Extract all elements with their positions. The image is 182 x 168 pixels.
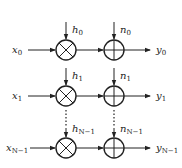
channel-row-0: x0 h0 n0 y0 (12, 22, 166, 60)
adder-icon (104, 40, 124, 60)
channel-row-1: x1 h1 n1 y1 (12, 68, 166, 106)
noise-label-n1: n1 (120, 70, 131, 83)
gain-label-hN-1: hN−1 (72, 123, 95, 136)
gain-label-h0: h0 (72, 24, 83, 37)
input-label-xN-1: xN−1 (6, 142, 28, 155)
input-label-x1: x1 (12, 90, 22, 103)
adder-icon (104, 86, 124, 106)
channel-row-n-1: xN−1 hN−1 nN−1 yN−1 (6, 123, 178, 158)
gain-label-h1: h1 (72, 70, 83, 83)
multiplier-icon (56, 138, 76, 158)
parallel-channel-diagram: x0 h0 n0 y0 x1 h1 n1 (0, 0, 182, 168)
adder-icon (104, 138, 124, 158)
input-label-x0: x0 (12, 44, 22, 57)
noise-label-n0: n0 (120, 24, 131, 37)
multiplier-icon (56, 86, 76, 106)
multiplier-icon (56, 40, 76, 60)
output-label-yN-1: yN−1 (155, 142, 178, 155)
output-label-y0: y0 (155, 44, 166, 57)
noise-label-nN-1: nN−1 (120, 123, 143, 136)
output-label-y1: y1 (155, 90, 166, 103)
